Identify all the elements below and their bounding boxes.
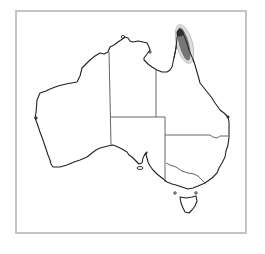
island-king (174, 192, 176, 194)
island-kangaroo (137, 167, 143, 170)
border-nsw-vic (166, 163, 205, 183)
border-wa-nt-sa (109, 52, 111, 145)
border-qld-nsw (165, 135, 228, 138)
island-shark-bay (35, 117, 38, 120)
island-flinders (195, 192, 197, 194)
island-groote (149, 51, 151, 53)
mainland-coastline (35, 29, 229, 189)
tasmania-coastline (180, 196, 197, 213)
island-fraser (227, 116, 229, 118)
distribution-range (172, 23, 198, 66)
australia-map: Species distribution map - Australia (0, 0, 265, 254)
